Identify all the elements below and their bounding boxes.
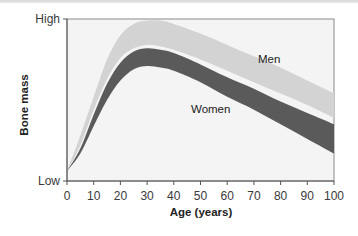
x-tick-label: 70 [247,189,261,203]
x-tick-label: 90 [301,189,315,203]
women-label: Women [191,103,230,115]
x-tick-label: 20 [114,189,128,203]
bone-mass-chart: 0102030405060708090100 High Low Bone mas… [0,0,358,236]
y-axis-title: Bone mass [18,74,30,135]
x-tick-label: 10 [87,189,101,203]
x-tick-label: 80 [274,189,288,203]
x-tick-label: 0 [64,189,71,203]
x-tick-label: 50 [194,189,208,203]
x-tick-label: 40 [167,189,181,203]
x-axis-title: Age (years) [170,206,233,218]
x-tick-label: 30 [140,189,154,203]
x-tick-label: 100 [324,189,344,203]
y-label-low: Low [38,174,60,188]
x-tick-label: 60 [221,189,235,203]
x-ticks: 0102030405060708090100 [64,181,345,203]
y-label-high: High [35,12,60,26]
men-label: Men [258,53,280,65]
